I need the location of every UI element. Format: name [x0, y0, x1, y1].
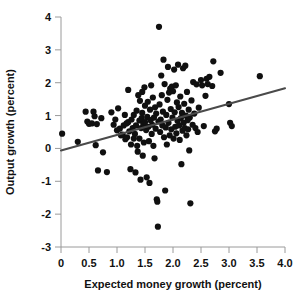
data-point	[112, 116, 118, 122]
data-point	[171, 66, 177, 72]
y-axis-ticks: -3-2-101234	[41, 11, 61, 253]
data-point	[158, 72, 164, 78]
x-tick-label: 1.0	[109, 257, 124, 269]
data-point	[170, 88, 176, 94]
data-point	[153, 111, 159, 117]
data-point	[218, 70, 224, 76]
data-point	[196, 105, 202, 111]
x-tick-label: 3.5	[249, 257, 264, 269]
data-point	[186, 107, 192, 113]
data-point	[93, 142, 99, 148]
data-point	[181, 101, 187, 107]
data-point	[150, 143, 156, 149]
data-point	[95, 167, 101, 173]
data-point	[172, 109, 178, 115]
data-point	[162, 81, 168, 87]
data-point	[148, 82, 154, 88]
data-point	[178, 161, 184, 167]
data-point	[163, 112, 169, 118]
y-tick-label: 4	[45, 11, 52, 23]
data-point	[159, 92, 165, 98]
data-point	[186, 147, 192, 153]
data-point	[184, 89, 190, 95]
data-point	[257, 73, 263, 79]
data-point	[122, 112, 128, 118]
data-point	[229, 123, 235, 129]
data-point	[193, 81, 199, 87]
data-point	[139, 110, 145, 116]
data-point	[149, 131, 155, 137]
data-point	[160, 57, 166, 63]
x-tick-label: 2.5	[193, 257, 208, 269]
data-point	[173, 130, 179, 136]
data-point	[156, 24, 162, 30]
x-tick-label: 3.0	[221, 257, 236, 269]
data-point	[164, 141, 170, 147]
x-axis-title: Expected money growth (percent)	[84, 278, 262, 290]
y-tick-label: 2	[45, 77, 51, 89]
data-point	[94, 121, 100, 127]
data-point	[188, 97, 194, 103]
data-point	[135, 149, 141, 155]
data-point	[185, 126, 191, 132]
axes	[61, 17, 285, 247]
y-tick-label: -1	[41, 175, 51, 187]
data-point	[104, 169, 110, 175]
data-points	[59, 24, 263, 230]
data-point	[137, 177, 143, 183]
y-tick-label: -2	[41, 208, 51, 220]
y-tick-label: 3	[45, 44, 51, 56]
data-point	[195, 129, 201, 135]
data-point	[98, 115, 104, 121]
data-point	[146, 138, 152, 144]
data-point	[75, 139, 81, 145]
data-point	[201, 123, 207, 129]
scatter-plot-figure: -3-2-101234 00.51.01.52.02.53.03.54.0 Ex…	[0, 0, 306, 297]
data-point	[108, 109, 114, 115]
data-point	[115, 105, 121, 111]
data-point	[141, 84, 147, 90]
x-tick-label: 0	[58, 257, 64, 269]
data-point	[132, 169, 138, 175]
data-point	[155, 224, 161, 230]
data-point	[199, 82, 205, 88]
data-point	[187, 200, 193, 206]
data-point	[183, 132, 189, 138]
data-point	[182, 63, 188, 69]
data-point	[150, 94, 156, 100]
data-point	[206, 74, 212, 80]
data-point	[210, 58, 216, 64]
data-point	[144, 174, 150, 180]
data-point	[157, 129, 163, 135]
data-point	[209, 83, 215, 89]
data-point	[100, 149, 106, 155]
data-point	[156, 101, 162, 107]
data-point	[125, 87, 131, 93]
data-point	[161, 134, 167, 140]
data-point	[124, 134, 130, 140]
x-tick-label: 0.5	[81, 257, 96, 269]
x-tick-label: 2.0	[165, 257, 180, 269]
data-point	[173, 82, 179, 88]
y-axis-title: Output growth (percent)	[4, 69, 16, 195]
data-point	[111, 122, 117, 128]
data-point	[92, 113, 98, 119]
data-point	[134, 143, 140, 149]
chart-canvas: -3-2-101234 00.51.01.52.02.53.03.54.0 Ex…	[0, 0, 306, 297]
data-point	[177, 137, 183, 143]
x-tick-label: 4.0	[277, 257, 292, 269]
data-point	[132, 131, 138, 137]
data-point	[175, 62, 181, 68]
data-point	[165, 64, 171, 70]
y-tick-label: 1	[45, 110, 51, 122]
data-point	[145, 99, 151, 105]
data-point	[170, 135, 176, 141]
data-point	[83, 109, 89, 115]
data-point	[59, 131, 65, 137]
data-point	[140, 153, 146, 159]
y-tick-label: -3	[41, 241, 51, 253]
data-point	[134, 108, 140, 114]
data-point	[137, 98, 143, 104]
data-point	[177, 93, 183, 99]
x-axis-ticks: 00.51.01.52.02.53.03.54.0	[58, 247, 293, 269]
